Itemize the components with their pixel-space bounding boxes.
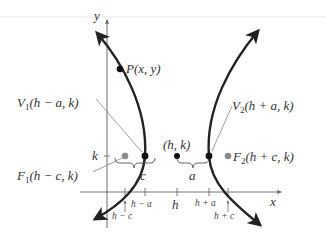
y-tick-label: k bbox=[92, 148, 98, 163]
focus-f1-label: F1(h − c, k) bbox=[16, 168, 78, 185]
vertex-v2-dot bbox=[206, 153, 213, 160]
vertex-v2-label: V2(h + a, k) bbox=[232, 98, 294, 115]
x-tick-label-h-plus-a: h + a bbox=[195, 198, 216, 208]
focus-f1-dot bbox=[122, 153, 129, 160]
brace-label-c: c bbox=[140, 168, 146, 183]
hyperbola-diagram: y x k h − a h − c h h + a h + c c a P(x,… bbox=[0, 0, 326, 238]
focus-f2-label: F2(h + c, k) bbox=[232, 149, 294, 166]
vertex-v1-label: V1(h − a, k) bbox=[17, 95, 79, 112]
x-tick-label-h-plus-c: h + c bbox=[214, 211, 235, 221]
x-tick-label-h: h bbox=[172, 197, 179, 212]
brace-c bbox=[115, 158, 155, 168]
brace-a bbox=[177, 158, 209, 168]
y-axis-label: y bbox=[92, 8, 100, 23]
center-label: (h, k) bbox=[163, 137, 190, 152]
leader-v1 bbox=[96, 99, 142, 152]
point-p-label: P(x, y) bbox=[125, 61, 161, 76]
right-branch bbox=[209, 31, 260, 225]
vertex-v1-dot bbox=[142, 153, 149, 160]
x-tick-label-h-minus-c: h − c bbox=[112, 211, 133, 221]
center-dot bbox=[174, 153, 180, 159]
focus-f2-dot bbox=[225, 153, 232, 160]
brace-label-a: a bbox=[189, 168, 196, 183]
x-tick-label-h-minus-a: h − a bbox=[131, 199, 152, 209]
x-axis-label: x bbox=[269, 194, 276, 209]
leader-v2 bbox=[212, 106, 232, 151]
point-p-dot bbox=[117, 66, 124, 73]
